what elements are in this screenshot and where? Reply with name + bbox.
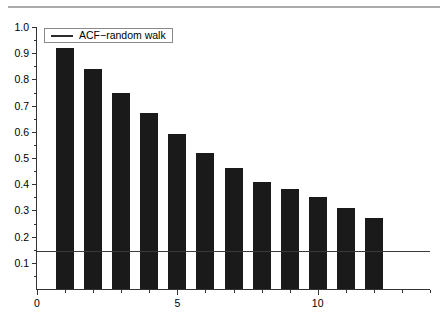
x-axis-minor-tick <box>234 290 235 293</box>
x-axis-ticks: 0510 <box>0 290 447 312</box>
legend-entry-label: ACF−random walk <box>79 30 166 41</box>
bar <box>140 113 158 289</box>
bar <box>225 168 243 289</box>
reference-line <box>37 251 430 252</box>
y-axis-tick-label: 0.1 <box>14 257 29 269</box>
header-divider-rule <box>8 6 440 8</box>
y-axis-tick-label: 0.8 <box>14 73 29 85</box>
bar <box>168 134 186 289</box>
x-axis-minor-tick <box>402 290 403 293</box>
x-axis-minor-tick <box>430 290 431 293</box>
bar <box>365 218 383 289</box>
x-axis-tick <box>177 290 178 295</box>
y-axis-tick-label: 0.5 <box>14 152 29 164</box>
x-axis-minor-tick <box>374 290 375 293</box>
legend-line-marker-icon <box>51 35 73 37</box>
bar <box>84 69 102 289</box>
x-axis-tick-label: 0 <box>34 297 40 309</box>
bar <box>281 189 299 289</box>
chart-figure: 0.10.20.30.40.50.60.70.80.91.0 0510 ACF−… <box>0 0 447 312</box>
x-axis-tick <box>37 290 38 295</box>
x-axis-minor-tick <box>149 290 150 293</box>
x-axis-minor-tick <box>290 290 291 293</box>
y-axis-tick-label: 0.6 <box>14 126 29 138</box>
x-axis-minor-tick <box>65 290 66 293</box>
x-axis-minor-tick <box>346 290 347 293</box>
chart-legend[interactable]: ACF−random walk <box>44 28 173 43</box>
bar <box>253 182 271 289</box>
bar <box>337 208 355 289</box>
bar <box>196 153 214 289</box>
plot-area <box>37 27 430 289</box>
y-axis-tick-label: 0.2 <box>14 231 29 243</box>
x-axis-minor-tick <box>121 290 122 293</box>
x-axis-minor-tick <box>93 290 94 293</box>
x-axis-tick-label: 5 <box>174 297 180 309</box>
y-axis-tick-label: 0.3 <box>14 204 29 216</box>
bar <box>112 93 130 290</box>
y-axis-tick-label: 0.4 <box>14 178 29 190</box>
x-axis-minor-tick <box>205 290 206 293</box>
y-axis-ticks: 0.10.20.30.40.50.60.70.80.91.0 <box>0 0 37 312</box>
y-axis-tick-label: 0.9 <box>14 47 29 59</box>
bar <box>56 48 74 289</box>
x-axis-minor-tick <box>262 290 263 293</box>
bar <box>309 197 327 289</box>
y-axis-tick-label: 0.7 <box>14 100 29 112</box>
x-axis-tick <box>318 290 319 295</box>
x-axis-tick-label: 10 <box>312 297 324 309</box>
y-axis-tick-label: 1.0 <box>14 21 29 33</box>
